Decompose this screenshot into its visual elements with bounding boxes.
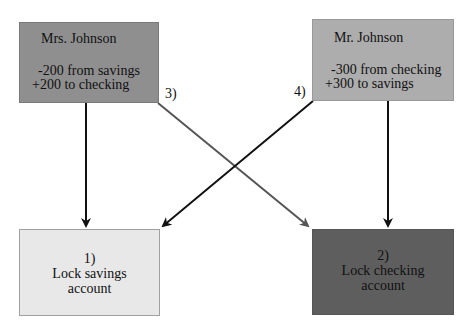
- mrs-johnson-debit: -200 from savings: [38, 63, 140, 78]
- mrs-johnson-node: Mrs. Johnson -200 from savings +200 to c…: [19, 22, 159, 103]
- mr-johnson-node: Mr. Johnson -300 from checking +300 to s…: [312, 19, 454, 101]
- lock-savings-line1: Lock savings: [20, 266, 159, 281]
- mr-johnson-title: Mr. Johnson: [334, 30, 403, 46]
- lock-savings-line2: account: [20, 281, 159, 296]
- mr-johnson-debit: -300 from checking: [331, 62, 441, 77]
- edge-label-step-3: 3): [165, 86, 177, 102]
- arrow-mr-to-lock-savings: [163, 101, 313, 226]
- mr-johnson-credit: +300 to savings: [325, 76, 414, 91]
- lock-savings-node: 1) Lock savings account: [19, 229, 160, 316]
- lock-checking-line1: Lock checking: [313, 263, 453, 278]
- arrow-mrs-to-lock-checking: [158, 103, 308, 226]
- lock-savings-step: 1): [20, 251, 159, 266]
- mrs-johnson-credit: +200 to checking: [32, 77, 129, 92]
- lock-checking-node: 2) Lock checking account: [312, 229, 454, 315]
- lock-checking-step: 2): [313, 248, 453, 263]
- lock-checking-line2: account: [313, 278, 453, 293]
- edge-label-step-4: 4): [294, 84, 306, 100]
- mrs-johnson-title: Mrs. Johnson: [41, 31, 116, 47]
